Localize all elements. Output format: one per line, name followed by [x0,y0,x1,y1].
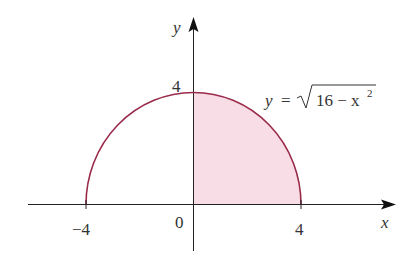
function-label-eq: = [281,91,291,110]
function-label: y = 16 − x 2 [263,85,376,110]
tick-label-y4: 4 [172,77,181,96]
function-label-exponent: 2 [367,87,373,99]
semicircle-figure: y x −4 0 4 4 y = 16 − x 2 [0,0,410,262]
tick-label-0: 0 [175,213,184,232]
function-label-radicand: 16 − x [316,91,360,110]
y-axis-label: y [171,18,181,37]
x-axis-label: x [380,213,389,232]
function-label-lhs: y [263,91,273,110]
tick-label-neg4: −4 [72,220,91,239]
tick-label-pos4: 4 [295,220,304,239]
